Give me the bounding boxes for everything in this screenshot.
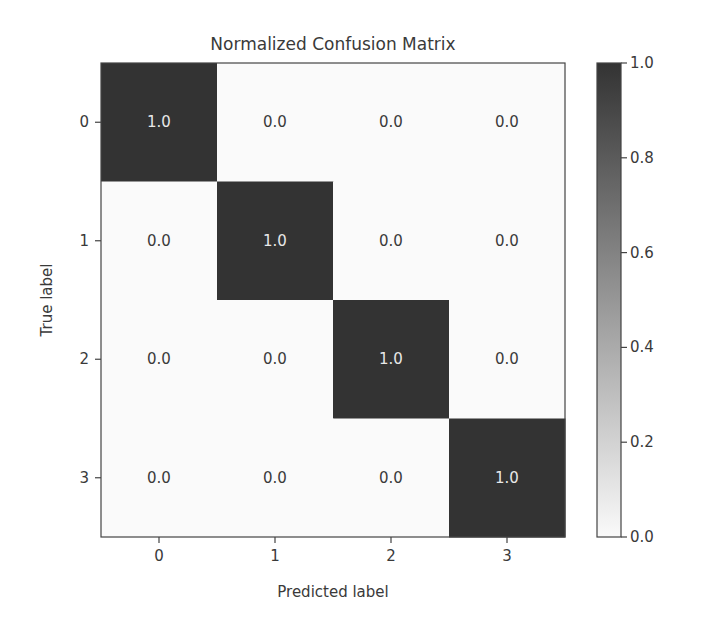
x-tick-label: 3 (502, 547, 512, 565)
cell-value-label: 0.0 (147, 469, 171, 487)
colorbar (597, 63, 621, 537)
cell-value-label: 1.0 (263, 232, 287, 250)
cell-value-label: 0.0 (147, 232, 171, 250)
cell-value-label: 0.0 (263, 113, 287, 131)
cell-value-label: 0.0 (495, 350, 519, 368)
y-tick-label: 1 (79, 232, 89, 250)
confusion-matrix-chart: Normalized Confusion Matrix 1.00.00.00.0… (0, 0, 703, 631)
colorbar-tick-label: 0.6 (630, 244, 654, 262)
cell-value-label: 1.0 (379, 350, 403, 368)
colorbar-tick-label: 1.0 (630, 54, 654, 72)
cell-value-label: 1.0 (495, 469, 519, 487)
colorbar-tick-label: 0.8 (630, 149, 654, 167)
x-axis-ticks: 0123 (154, 537, 512, 565)
y-tick-label: 3 (79, 469, 89, 487)
x-tick-label: 0 (154, 547, 164, 565)
colorbar-tick-label: 0.2 (630, 433, 654, 451)
y-tick-label: 0 (79, 113, 89, 131)
cell-value-label: 0.0 (495, 113, 519, 131)
cell-value-label: 1.0 (147, 113, 171, 131)
colorbar-ticks: 0.00.20.40.60.81.0 (621, 54, 654, 546)
colorbar-tick-label: 0.4 (630, 338, 654, 356)
x-tick-label: 2 (386, 547, 396, 565)
cell-value-label: 0.0 (379, 232, 403, 250)
x-tick-label: 1 (270, 547, 280, 565)
y-tick-label: 2 (79, 350, 89, 368)
cell-value-label: 0.0 (379, 469, 403, 487)
chart-title: Normalized Confusion Matrix (210, 34, 455, 54)
cell-value-label: 0.0 (147, 350, 171, 368)
y-axis-label: True label (38, 264, 56, 338)
x-axis-label: Predicted label (277, 583, 388, 601)
colorbar-tick-label: 0.0 (630, 528, 654, 546)
cell-value-label: 0.0 (379, 113, 403, 131)
heatmap-cells (101, 63, 566, 538)
cell-value-label: 0.0 (263, 469, 287, 487)
cell-value-label: 0.0 (495, 232, 519, 250)
y-axis-ticks: 0123 (79, 113, 101, 487)
cell-value-label: 0.0 (263, 350, 287, 368)
